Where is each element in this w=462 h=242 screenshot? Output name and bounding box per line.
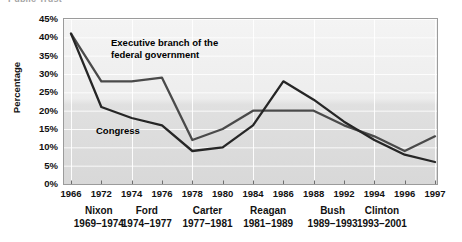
y-axis-title: Percentage [11,43,22,133]
y-tick-label: 35% [24,50,58,61]
annotation-executive-branch: Executive branch of the federal governme… [111,37,218,60]
annotation-congress: Congress [96,125,140,137]
y-tick-label: 15% [24,123,58,134]
president-term: 1993–2001 [334,217,430,230]
president-name: Clinton [334,204,430,217]
y-tick-label: 20% [24,105,58,116]
y-tick-label: 10% [24,141,58,152]
president-group: Clinton1993–2001 [334,204,430,230]
y-tick-label: 25% [24,86,58,97]
y-tick-label: 40% [24,31,58,42]
chart-figure: Public Trust Percentage 45%40%35%30%25%2… [0,0,462,242]
x-tick-label: 1997 [415,188,455,199]
x-axis-president-groups: Nixon1969–1974Ford1974–1977Carter1977–19… [0,204,462,238]
y-tick-label: 5% [24,160,58,171]
y-tick-label: 30% [24,68,58,79]
x-axis-tick-labels: 1966197219741976197819801984198619881992… [0,188,462,204]
y-tick-label: 45% [24,13,58,24]
